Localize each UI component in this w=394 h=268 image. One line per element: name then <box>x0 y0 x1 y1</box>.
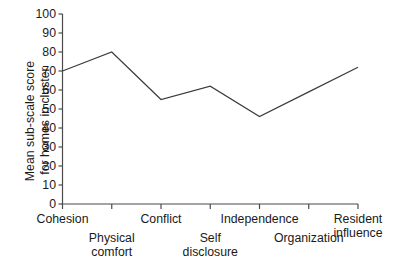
x-category-label-line: Conflict <box>140 213 181 227</box>
chart-figure: Mean sub-scale score for homes in cluste… <box>0 0 394 268</box>
x-category-label-line: Self <box>183 232 238 246</box>
x-category-label-6: Residentinfluence <box>333 213 382 240</box>
x-category-label-line: Independence <box>221 213 299 227</box>
x-category-label-1: Physicalcomfort <box>89 232 135 259</box>
x-category-label-2: Conflict <box>140 213 181 227</box>
x-category-label-3: Selfdisclosure <box>183 232 238 259</box>
x-category-label-line: Resident <box>333 213 382 227</box>
x-category-label-line: disclosure <box>183 246 238 260</box>
x-category-label-line: influence <box>333 227 382 241</box>
x-category-label-line: Physical <box>89 232 135 246</box>
axis-ticks <box>59 14 359 209</box>
axes <box>63 14 359 204</box>
data-series-line <box>63 52 359 117</box>
x-category-label-line: comfort <box>89 246 135 260</box>
x-category-label-4: Independence <box>221 213 299 227</box>
x-category-label-line: Cohesion <box>37 213 89 227</box>
x-category-label-0: Cohesion <box>37 213 89 227</box>
